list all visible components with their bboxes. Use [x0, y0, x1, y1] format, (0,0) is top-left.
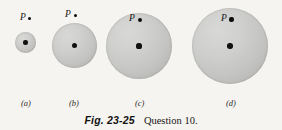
figure-caption-text: Question 10.	[144, 115, 198, 126]
sphere-c-center-dot	[136, 43, 141, 48]
point-p-label-c: P	[129, 14, 135, 24]
panel-label-d: (d)	[226, 99, 236, 108]
sphere-d-center-dot	[227, 43, 232, 48]
panel-label-b: (b)	[69, 99, 79, 108]
sphere-a-center-dot	[23, 40, 27, 44]
sphere-b-center-dot	[72, 43, 77, 48]
point-p-dot-d	[229, 17, 233, 21]
figure-caption: Fig. 23-25 Question 10.	[0, 111, 282, 129]
point-p-dot-b	[74, 14, 78, 18]
figure-number: Fig. 23-25	[84, 114, 134, 126]
point-p-label-d: P	[221, 14, 227, 24]
point-p-label-a: P	[20, 13, 26, 23]
panel-label-c: (c)	[135, 99, 144, 108]
panel-label-a: (a)	[21, 99, 31, 108]
point-p-label-b: P	[65, 10, 71, 20]
point-p-dot-c	[138, 18, 142, 22]
point-p-dot-a	[28, 17, 32, 21]
figure-23-25: P (a) P (b) P (c) P (d) Fig. 23-25 Quest…	[0, 0, 282, 130]
